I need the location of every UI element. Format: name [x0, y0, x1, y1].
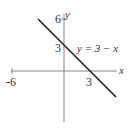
y-tick-label-3: 3 [55, 42, 61, 54]
y-axis-label: y [65, 8, 70, 20]
y-tick-label-6: 6 [55, 13, 61, 25]
x-tick-label-3: 3 [86, 76, 92, 88]
line-y-equals-3-minus-x [38, 19, 116, 97]
x-axis-label: x [119, 64, 124, 76]
x-tick-label-neg6: -6 [6, 76, 16, 88]
equation-label: y = 3 − x [77, 42, 118, 54]
